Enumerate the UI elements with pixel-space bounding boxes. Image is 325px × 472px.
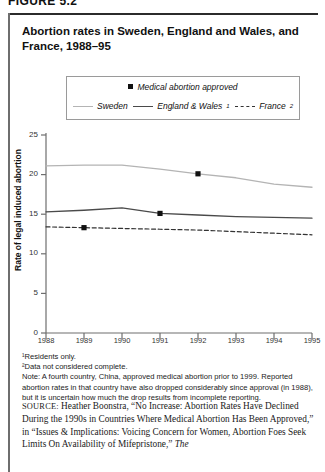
footnote-2: ²Data not considered complete.	[22, 362, 314, 372]
x-tick-label: 1991	[143, 336, 177, 345]
figure-note: Note: A fourth country, China, approved …	[22, 372, 314, 403]
y-tick-label: 5	[14, 288, 38, 297]
legend-item-england-wales: England & Wales1	[133, 101, 229, 111]
legend-item-france: France2	[235, 101, 293, 111]
series-line-france	[46, 227, 312, 235]
x-tick-label: 1988	[29, 336, 63, 345]
approval-marker	[195, 171, 200, 176]
y-tick-label: 20	[14, 169, 38, 178]
series-line-england-wales	[46, 208, 312, 218]
x-tick-label: 1993	[219, 336, 253, 345]
chart-legend: Medical abortion approved Sweden England…	[66, 76, 300, 120]
legend-marker-label: Medical abortion approved	[137, 82, 237, 92]
line-swatch-icon	[73, 106, 93, 107]
x-tick-label: 1992	[181, 336, 215, 345]
source-italic-tail: The	[175, 439, 189, 449]
y-ticks	[41, 135, 46, 333]
legend-series-row: Sweden England & Wales1 France2	[73, 101, 293, 111]
axes	[41, 133, 312, 339]
series-lines	[46, 165, 312, 235]
legend-marker-row: Medical abortion approved	[67, 82, 299, 92]
line-swatch-icon	[133, 106, 153, 107]
source-label: SOURCE:	[22, 402, 59, 411]
top-rule	[8, 13, 318, 15]
y-tick-label: 25	[14, 130, 38, 139]
legend-label-england-wales: England & Wales	[157, 101, 222, 111]
approval-marker	[157, 211, 162, 216]
approval-marker	[81, 225, 86, 230]
legend-label-sweden: Sweden	[97, 101, 128, 111]
approval-markers	[81, 171, 200, 230]
x-tick-label: 1995	[295, 336, 325, 345]
figure-number: FIGURE 5.2	[8, 0, 77, 8]
figure-notes: ¹Residents only. ²Data not considered co…	[22, 352, 314, 403]
left-rule	[8, 13, 10, 472]
legend-label-france: France	[259, 101, 285, 111]
dashed-line-swatch-icon	[235, 106, 255, 107]
footnote-1: ¹Residents only.	[22, 352, 314, 362]
figure-title: Abortion rates in Sweden, England and Wa…	[22, 24, 312, 54]
x-tick-label: 1994	[257, 336, 291, 345]
figure-source: SOURCE: Heather Boonstra, “No Increase: …	[22, 400, 314, 451]
y-tick-label: 10	[14, 248, 38, 257]
figure-panel: FIGURE 5.2 Abortion rates in Sweden, Eng…	[0, 0, 325, 472]
square-marker-icon	[128, 84, 133, 89]
series-line-sweden	[46, 165, 312, 187]
x-tick-label: 1989	[67, 336, 101, 345]
y-tick-label: 15	[14, 209, 38, 218]
x-tick-label: 1990	[105, 336, 139, 345]
source-text: Heather Boonstra, “No Increase: Abortion…	[22, 401, 313, 449]
legend-item-sweden: Sweden	[73, 101, 128, 111]
